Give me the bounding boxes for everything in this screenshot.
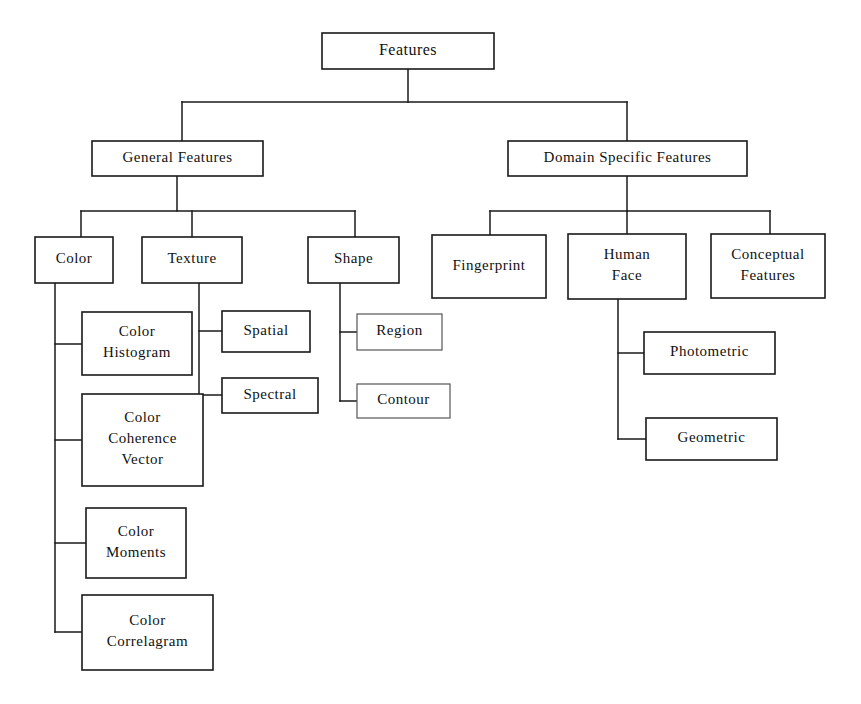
node-label-photometric: Photometric bbox=[670, 343, 749, 359]
node-photometric[interactable]: Photometric bbox=[644, 332, 775, 374]
node-general-features[interactable]: General Features bbox=[92, 141, 263, 176]
node-label-spatial: Spatial bbox=[243, 322, 288, 338]
node-conceptual-features[interactable]: ConceptualFeatures bbox=[711, 234, 825, 298]
node-color-moments[interactable]: ColorMoments bbox=[86, 508, 186, 578]
node-color-correlagram[interactable]: ColorCorrelagram bbox=[82, 595, 213, 670]
feature-taxonomy-diagram: FeaturesGeneral FeaturesDomain Specific … bbox=[0, 0, 861, 704]
node-label-color-moments: Moments bbox=[106, 544, 166, 560]
node-label-fingerprint: Fingerprint bbox=[453, 257, 526, 273]
node-contour[interactable]: Contour bbox=[357, 384, 450, 418]
node-label-color-coherence-vector: Color bbox=[124, 409, 161, 425]
tree-canvas: FeaturesGeneral FeaturesDomain Specific … bbox=[0, 0, 861, 704]
node-label-domain-specific-features: Domain Specific Features bbox=[544, 149, 712, 165]
node-label-color-correlagram: Color bbox=[129, 612, 166, 628]
node-texture[interactable]: Texture bbox=[142, 237, 242, 283]
node-features[interactable]: Features bbox=[322, 33, 494, 69]
node-label-color-coherence-vector: Vector bbox=[121, 451, 163, 467]
node-label-human-face: Face bbox=[612, 267, 642, 283]
node-label-color-moments: Color bbox=[118, 523, 155, 539]
node-label-region: Region bbox=[376, 322, 422, 338]
node-geometric[interactable]: Geometric bbox=[646, 418, 777, 460]
node-spatial[interactable]: Spatial bbox=[222, 311, 310, 352]
node-layer: FeaturesGeneral FeaturesDomain Specific … bbox=[35, 33, 825, 670]
node-label-conceptual-features: Conceptual bbox=[731, 246, 804, 262]
node-color-coherence-vector[interactable]: ColorCoherenceVector bbox=[82, 394, 203, 486]
node-label-color-coherence-vector: Coherence bbox=[108, 430, 177, 446]
node-region[interactable]: Region bbox=[357, 314, 442, 350]
node-label-geometric: Geometric bbox=[678, 429, 746, 445]
node-label-human-face: Human bbox=[604, 246, 651, 262]
node-label-color-histogram: Color bbox=[119, 323, 156, 339]
node-label-conceptual-features: Features bbox=[741, 267, 796, 283]
node-color-histogram[interactable]: ColorHistogram bbox=[82, 312, 192, 375]
node-label-color-correlagram: Correlagram bbox=[107, 633, 188, 649]
node-spectral[interactable]: Spectral bbox=[222, 378, 318, 413]
node-label-contour: Contour bbox=[377, 391, 430, 407]
node-fingerprint[interactable]: Fingerprint bbox=[432, 235, 546, 298]
node-label-color: Color bbox=[56, 250, 93, 266]
node-label-general-features: General Features bbox=[122, 149, 232, 165]
node-label-texture: Texture bbox=[167, 250, 216, 266]
node-label-features: Features bbox=[379, 41, 437, 58]
node-color[interactable]: Color bbox=[35, 237, 113, 283]
node-human-face[interactable]: HumanFace bbox=[568, 234, 686, 299]
node-domain-specific-features[interactable]: Domain Specific Features bbox=[508, 141, 747, 176]
node-label-color-histogram: Histogram bbox=[103, 344, 171, 360]
node-label-shape: Shape bbox=[334, 250, 373, 266]
node-label-spectral: Spectral bbox=[243, 386, 296, 402]
node-shape[interactable]: Shape bbox=[308, 237, 399, 283]
